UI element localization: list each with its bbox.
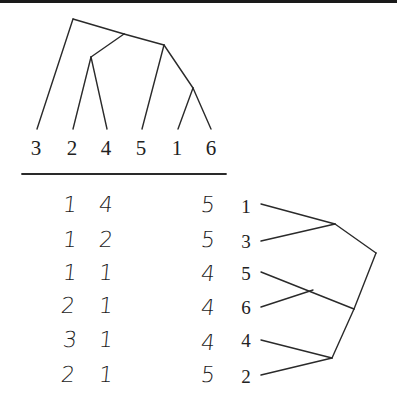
right-leaf-label: 4 (241, 331, 251, 350)
top-tree (37, 19, 211, 129)
cell-a: 1 (62, 262, 78, 284)
right-leaf-label: 5 (241, 264, 251, 283)
tree-lines (0, 0, 397, 407)
cell-c: 4 (200, 297, 216, 319)
cell-a: 3 (62, 329, 78, 351)
top-leaf-label: 4 (101, 138, 112, 159)
cell-c: 4 (200, 263, 216, 285)
right-leaf-label: 6 (241, 298, 251, 317)
top-leaf-label: 1 (172, 138, 183, 159)
cell-b: 1 (98, 364, 114, 386)
right-leaf-label: 3 (241, 232, 251, 251)
cell-c: 5 (200, 194, 216, 216)
right-tree (261, 204, 376, 375)
cell-c: 5 (200, 364, 216, 386)
cell-b: 2 (98, 229, 114, 251)
cell-a: 1 (62, 194, 78, 216)
top-leaf-label: 2 (67, 138, 78, 159)
right-leaf-label: 1 (241, 197, 251, 216)
cell-a: 2 (60, 364, 76, 386)
top-leaf-label: 3 (31, 138, 42, 159)
cell-a: 1 (62, 229, 78, 251)
cell-b: 1 (98, 329, 114, 351)
top-leaf-label: 5 (136, 138, 147, 159)
cell-a: 2 (60, 295, 76, 317)
right-leaf-label: 2 (241, 367, 251, 386)
cell-b: 4 (98, 194, 114, 216)
cell-b: 1 (98, 262, 114, 284)
diagram-canvas: 3 2 4 5 1 6 1 4 5 1 1 2 5 3 1 1 4 5 2 1 … (0, 0, 397, 407)
cell-c: 5 (200, 229, 216, 251)
top-leaf-label: 6 (206, 138, 217, 159)
cell-c: 4 (200, 332, 216, 354)
cell-b: 1 (98, 295, 114, 317)
